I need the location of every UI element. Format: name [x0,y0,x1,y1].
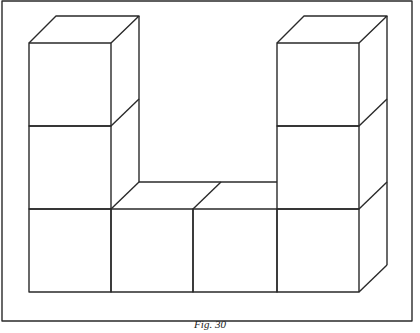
figure-caption: Fig. 30 [0,318,420,330]
right-tower [277,16,387,292]
middle-row [111,182,277,292]
left-tower [29,16,139,292]
figure-frame [2,1,412,321]
cube-diagram [0,0,420,333]
